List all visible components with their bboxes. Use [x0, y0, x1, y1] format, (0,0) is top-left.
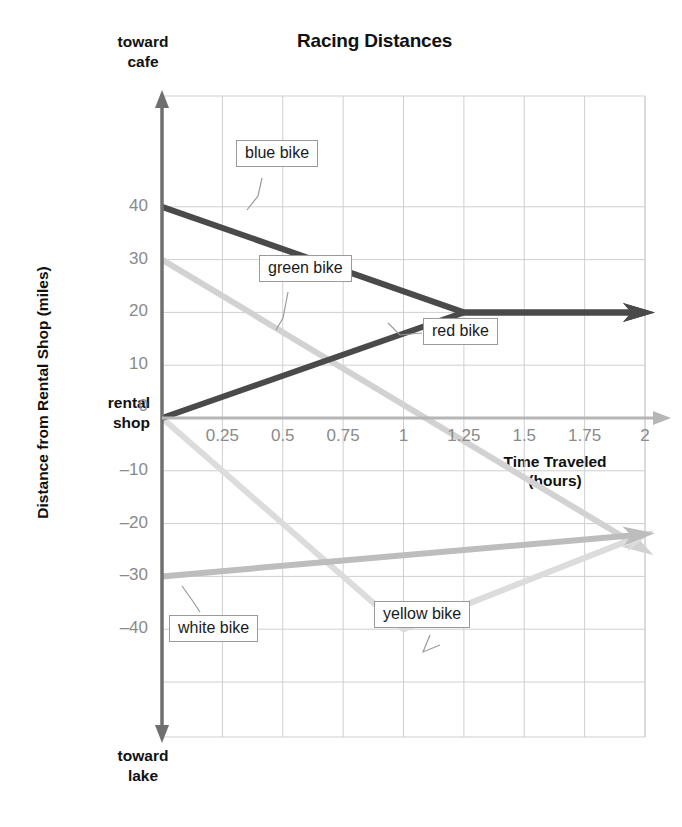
x-tick-label: 0.5 — [253, 426, 313, 446]
x-tick-label: 0.75 — [313, 426, 373, 446]
series-red-bike — [162, 303, 655, 418]
y-tick-label: –40 — [86, 618, 148, 638]
y-tick-label: 20 — [86, 301, 148, 321]
x-tick-label: 1 — [374, 426, 434, 446]
chart-canvas: Racing Distances toward cafe toward lake… — [0, 0, 682, 827]
callout-green-bike: green bike — [259, 255, 352, 282]
callout-yellow-bike: yellow bike — [374, 601, 470, 628]
y-tick-label-zero: 0 — [112, 396, 148, 416]
series-green-bike — [162, 260, 654, 556]
y-tick-label: 40 — [86, 196, 148, 216]
axes — [155, 90, 671, 743]
callout-blue-bike: blue bike — [236, 140, 318, 167]
plot-area — [0, 0, 682, 827]
callout-red-bike: red bike — [423, 318, 498, 345]
x-tick-label: 1.75 — [555, 426, 615, 446]
x-tick-label: 0.25 — [192, 426, 252, 446]
callout-leader-lines — [182, 178, 440, 652]
y-tick-label: 30 — [86, 249, 148, 269]
y-tick-label: –10 — [86, 460, 148, 480]
x-tick-label: 2 — [615, 426, 675, 446]
x-tick-label: 1.5 — [494, 426, 554, 446]
callout-white-bike: white bike — [169, 615, 258, 642]
series-white-bike — [162, 527, 655, 577]
y-tick-label: –20 — [86, 513, 148, 533]
y-tick-label: 10 — [86, 354, 148, 374]
y-tick-label: –30 — [86, 565, 148, 585]
x-tick-label: 1.25 — [434, 426, 494, 446]
